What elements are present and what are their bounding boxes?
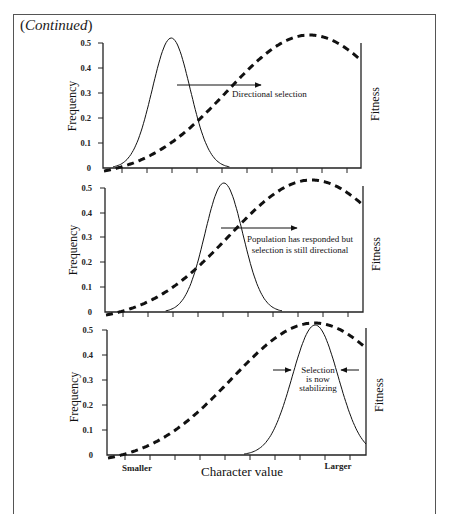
svg-text:0.5: 0.5: [80, 38, 91, 48]
svg-text:0: 0: [89, 450, 93, 460]
panel-directional-selection: 0.5 0.4 0.3 0.2 0.1 0 Frequency Fitness …: [65, 35, 382, 173]
y-tick-labels: 0.5 0.4 0.3 0.2 0.1 0: [81, 183, 92, 317]
annotation-line-2: selection is still directional: [252, 245, 349, 255]
svg-text:0.5: 0.5: [81, 183, 92, 193]
fitness-axis-title: Fitness: [368, 87, 382, 121]
svg-text:0.4: 0.4: [81, 208, 92, 218]
frequency-axis-title: Frequency: [65, 81, 79, 132]
x-ticks: [123, 312, 348, 317]
x-label-larger: Larger: [325, 461, 352, 471]
svg-text:0.2: 0.2: [82, 400, 93, 410]
frequency-axis-title: Frequency: [66, 225, 80, 276]
fitness-curve: [104, 35, 361, 171]
svg-text:0.4: 0.4: [82, 350, 93, 360]
frequency-distribution-curve: [113, 38, 229, 167]
svg-text:0.3: 0.3: [82, 375, 93, 385]
svg-text:0.2: 0.2: [81, 257, 92, 267]
y-ticks: [100, 188, 105, 287]
svg-text:0.3: 0.3: [81, 232, 92, 242]
svg-text:0: 0: [88, 307, 92, 317]
svg-text:0.4: 0.4: [80, 63, 91, 73]
svg-text:0.2: 0.2: [80, 113, 91, 123]
x-ticks: [122, 168, 347, 173]
y-tick-labels: 0.5 0.4 0.3 0.2 0.1 0: [82, 325, 93, 460]
panel-responded-still-directional: 0.5 0.4 0.3 0.2 0.1 0 Frequency Fitness …: [66, 180, 383, 317]
frequency-axis: [103, 43, 361, 168]
fitness-axis-title: Fitness: [369, 237, 383, 271]
svg-text:0.3: 0.3: [80, 88, 91, 98]
fitness-axis-title: Fitness: [372, 378, 386, 412]
svg-text:0.1: 0.1: [82, 425, 93, 435]
y-tick-labels: 0.5 0.4 0.3 0.2 0.1 0: [80, 38, 91, 173]
y-ticks: [102, 330, 107, 430]
annotation-line-1: Population has responded but: [247, 234, 354, 244]
x-axis-title: Character value: [201, 464, 283, 479]
annotation-line-3: stabilizing: [299, 383, 337, 393]
y-ticks: [98, 43, 103, 143]
svg-text:0: 0: [87, 163, 91, 173]
x-label-smaller: Smaller: [122, 463, 152, 473]
svg-text:0.5: 0.5: [82, 325, 93, 335]
panel-stabilizing-selection: 0.5 0.4 0.3 0.2 0.1 0 Frequency Fitness …: [67, 323, 386, 479]
frequency-axis-title: Frequency: [67, 372, 81, 423]
x-ticks: [125, 455, 350, 460]
svg-text:0.1: 0.1: [80, 138, 91, 148]
annotation-directional-selection: Directional selection: [232, 89, 307, 99]
svg-text:0.1: 0.1: [81, 282, 92, 292]
